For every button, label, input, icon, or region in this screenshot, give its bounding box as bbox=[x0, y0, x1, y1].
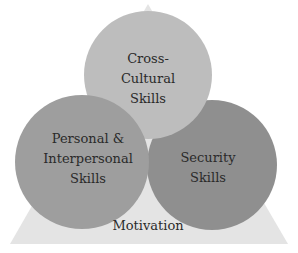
security-label-line1: Security bbox=[180, 150, 236, 165]
personal-label-line3: Skills bbox=[70, 171, 106, 186]
cross-cultural-label-line1: Cross- bbox=[127, 51, 169, 66]
personal-label-line1: Personal & bbox=[52, 131, 125, 146]
cross-cultural-label-line3: Skills bbox=[130, 91, 166, 106]
skills-diagram: Cross- Cultural Skills Personal & Interp… bbox=[0, 0, 298, 253]
motivation-label: Motivation bbox=[112, 218, 184, 233]
security-label-line2: Skills bbox=[190, 170, 226, 185]
cross-cultural-label-line2: Cultural bbox=[121, 71, 175, 86]
personal-label-line2: Interpersonal bbox=[43, 151, 133, 166]
